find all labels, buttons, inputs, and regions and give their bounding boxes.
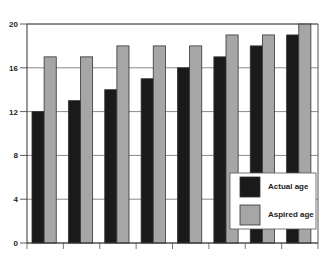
y-tick-label: 0: [14, 239, 19, 248]
legend-swatch-actual: [240, 177, 260, 197]
y-tick-label: 20: [9, 20, 18, 29]
legend: Actual age Aspired age: [230, 173, 316, 229]
bar-actual-age: [32, 112, 44, 243]
bar-actual-age: [178, 68, 190, 243]
y-tick-label: 4: [14, 195, 19, 204]
bar-actual-age: [141, 79, 153, 243]
y-tick-label: 16: [9, 64, 18, 73]
bar-aspired-age: [81, 57, 93, 243]
legend-label-actual: Actual age: [268, 182, 309, 191]
y-tick-label: 8: [14, 151, 19, 160]
legend-swatch-aspired: [240, 205, 260, 225]
bar-actual-age: [68, 101, 80, 243]
bar-actual-age: [105, 90, 117, 243]
y-tick-label: 12: [9, 108, 18, 117]
bar-aspired-age: [190, 46, 202, 243]
legend-label-aspired: Aspired age: [268, 210, 314, 219]
bar-aspired-age: [117, 46, 129, 243]
y-axis-ticks: 048121620: [9, 20, 27, 248]
bar-chart: 048121620 Actual age Aspired age: [0, 0, 332, 262]
bar-actual-age: [214, 57, 226, 243]
bar-aspired-age: [153, 46, 165, 243]
bar-aspired-age: [44, 57, 56, 243]
